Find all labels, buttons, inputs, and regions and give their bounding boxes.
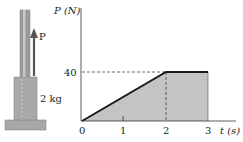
apparatus: P 2 kg [5,10,63,130]
collar-block [14,77,37,120]
x-tick-label-1: 1 [120,125,126,136]
x-tick-label-0: 0 [79,125,85,136]
y-axis-label: P (N) [53,5,81,16]
figure: P 2 kg P (N) 40 0 1 2 3 t (s) [0,0,243,142]
force-label: P [39,31,46,42]
y-tick-40: 40 [64,67,77,78]
mass-label: 2 kg [40,93,63,104]
force-arrow-icon [30,28,38,76]
force-time-chart: P (N) 40 0 1 2 3 t (s) [53,5,240,136]
x-axis-label: t (s) [220,125,240,136]
x-tick-label-3: 3 [205,125,211,136]
impulse-area [82,72,208,121]
rod-highlight [23,10,26,77]
x-tick-label-2: 2 [163,125,169,136]
ground-base [5,120,46,130]
